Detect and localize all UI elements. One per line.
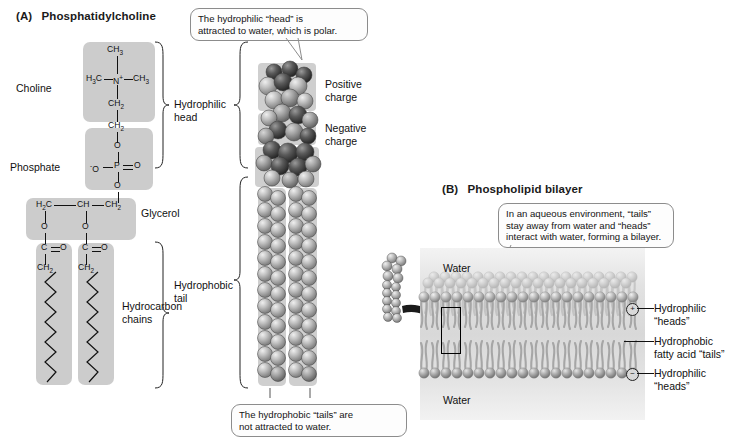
callout-bilayer-line1: In an aqueous environment, “tails” xyxy=(506,208,651,219)
label-hydrophilic-heads-bottom-line2: “heads” xyxy=(654,380,690,392)
bond-phosphate-right-a xyxy=(123,165,133,166)
bracket-label-hydrophobic-tail: Hydrophobic tail xyxy=(174,279,240,304)
atom-choline-ch2-b: CH2 xyxy=(108,121,124,133)
bond-ester-left-a xyxy=(51,247,60,248)
bracket-label-hydrophilic-head-line2: head xyxy=(174,111,197,123)
callout-head-line2: attracted to water, which is polar. xyxy=(198,25,337,36)
bracket-label-hydrophobic-tail-line2: tail xyxy=(174,292,187,304)
atom-choline-top-methyl: CH3 xyxy=(107,45,123,57)
label-hydrophilic-heads-top-line2: “heads” xyxy=(654,315,690,327)
leader-line-heads-bottom xyxy=(637,373,654,374)
atom-glycerol-ch: CH xyxy=(77,200,89,209)
bracket-tail-right xyxy=(233,175,251,390)
label-water-bottom: Water xyxy=(443,394,471,407)
atom-phosphate-o-bottom: O xyxy=(114,181,121,190)
label-hydrophilic-heads-bottom: Hydrophilic “heads” xyxy=(654,367,730,392)
bracket-tail-left xyxy=(152,240,170,390)
panel-a-title-text: Phosphatidylcholine xyxy=(42,10,156,22)
hydrocarbon-chain-left xyxy=(36,272,72,384)
bracket-label-hydrophobic-tail-line1: Hydrophobic xyxy=(174,279,233,291)
label-positive-charge-line1: Positive xyxy=(325,78,362,90)
bracket-label-hydrophilic-head: Hydrophilic head xyxy=(174,98,236,123)
panel-a-title: (A) Phosphatidylcholine xyxy=(16,10,156,22)
bond-phosphate-right-b xyxy=(123,169,133,170)
callout-tails-line1: The hydrophobic “tails” are xyxy=(239,409,353,420)
callout-bilayer-line3: interact with water, forming a bilayer. xyxy=(506,231,661,242)
label-negative-charge: Negative charge xyxy=(325,122,385,147)
charge-marker-minus: − xyxy=(626,368,639,381)
label-glycerol: Glycerol xyxy=(141,207,180,220)
atom-phosphate-o-right: O xyxy=(134,161,141,170)
callout-hydrophobic-tails: The hydrophobic “tails” are not attracte… xyxy=(231,404,407,437)
atom-glycerol-o-mid: O xyxy=(82,222,89,231)
callout-tails-line2: not attracted to water. xyxy=(239,421,331,432)
label-hydrocarbon-chains-line2: chains xyxy=(122,313,152,325)
atom-glycerol-o-left: O xyxy=(41,222,48,231)
charge-marker-plus-text: + xyxy=(630,304,635,313)
hydrocarbon-chain-right xyxy=(78,272,114,384)
callout-head-line1: The hydrophilic “head” is xyxy=(198,13,303,24)
bond-choline-left xyxy=(104,79,113,80)
label-hydrophilic-heads-bottom-line1: Hydrophilic xyxy=(654,367,706,379)
bond-ester-left-b xyxy=(51,251,60,252)
label-hydrophilic-heads-top-line1: Hydrophilic xyxy=(654,302,706,314)
figure-canvas: (A) Phosphatidylcholine CH3 H3C N+ CH3 C… xyxy=(0,0,730,438)
lipid-highlight-box xyxy=(441,307,461,354)
panel-b-title-text: Phospholipid bilayer xyxy=(468,183,583,195)
callout-tails-connector xyxy=(262,388,322,404)
panel-a-tag: (A) xyxy=(16,10,32,22)
leader-line-tails xyxy=(624,341,654,342)
panel-b-title: (B) Phospholipid bilayer xyxy=(442,183,583,195)
bond-glycerol-b xyxy=(92,205,104,206)
label-negative-charge-line1: Negative xyxy=(325,122,366,134)
panel-b-tag: (B) xyxy=(442,183,458,195)
bracket-label-hydrophilic-head-line1: Hydrophilic xyxy=(174,98,226,110)
space-filling-model xyxy=(252,58,328,392)
charge-marker-plus: + xyxy=(626,303,639,316)
atom-ester-right-c: C xyxy=(82,243,88,252)
atom-ester-left-c: C xyxy=(41,243,47,252)
label-phosphate: Phosphate xyxy=(10,161,60,174)
callout-hydrophilic-head: The hydrophilic “head” is attracted to w… xyxy=(190,8,368,41)
label-positive-charge: Positive charge xyxy=(325,78,385,103)
atom-ester-left-o: O xyxy=(60,243,67,252)
bond-glycerol-a xyxy=(54,205,76,206)
leader-line-heads-top xyxy=(637,308,654,309)
atom-glycerol-h2c: H2C xyxy=(36,200,52,212)
label-hydrophilic-heads-top: Hydrophilic “heads” xyxy=(654,302,730,327)
callout-bilayer-line2: stay away from water and “heads” xyxy=(506,220,651,231)
bracket-head-right xyxy=(233,40,251,170)
atom-glycerol-ch2: CH2 xyxy=(105,200,121,212)
bracket-head-left xyxy=(152,40,170,170)
bond-choline-right xyxy=(124,79,133,80)
bond-phosphate-left xyxy=(103,167,113,168)
bond-choline-down1 xyxy=(117,85,118,99)
atom-choline-left-methyl: H3C xyxy=(86,74,102,86)
bond-ester-right-a xyxy=(92,247,101,248)
atom-choline-ch2-a: CH2 xyxy=(108,99,124,111)
atom-phosphate-o-top: O xyxy=(114,141,121,150)
bond-ester-right-b xyxy=(92,251,101,252)
label-hydrophobic-tails: Hydrophobic fatty acid “tails” xyxy=(654,335,730,360)
atom-phosphate-p: P xyxy=(114,161,120,170)
label-positive-charge-line2: charge xyxy=(325,91,357,103)
label-negative-charge-line2: charge xyxy=(325,135,357,147)
callout-bilayer: In an aqueous environment, “tails” stay … xyxy=(498,203,674,248)
atom-choline-nitrogen: N+ xyxy=(113,73,123,86)
charge-marker-minus-text: − xyxy=(630,369,635,378)
bond-choline-top xyxy=(117,56,118,74)
atom-ester-right-o: O xyxy=(101,243,108,252)
label-choline: Choline xyxy=(16,82,52,95)
atom-phosphate-o-left: -O xyxy=(90,161,99,174)
label-hydrophobic-tails-line1: Hydrophobic xyxy=(654,335,713,347)
atom-choline-right-methyl: CH3 xyxy=(133,74,149,86)
label-hydrophobic-tails-line2: fatty acid “tails” xyxy=(654,348,725,360)
